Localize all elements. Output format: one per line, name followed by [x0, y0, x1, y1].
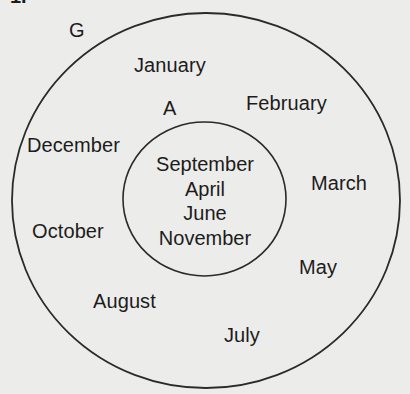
month-april: April	[124, 177, 286, 202]
month-september: September	[124, 152, 286, 177]
venn-diagram: 1. G A January February March May July A…	[0, 0, 410, 394]
month-january: January	[134, 55, 206, 75]
month-november: November	[124, 226, 286, 251]
month-february: February	[246, 93, 327, 113]
month-december: December	[27, 135, 120, 155]
month-may: May	[299, 257, 337, 277]
month-june: June	[124, 201, 286, 226]
month-october: October	[32, 221, 104, 241]
set-label-a: A	[163, 98, 176, 118]
set-label-g: G	[69, 20, 85, 40]
month-july: July	[224, 325, 260, 345]
subset-a-members: September April June November	[124, 152, 286, 250]
month-march: March	[311, 173, 367, 193]
month-august: August	[93, 291, 156, 311]
